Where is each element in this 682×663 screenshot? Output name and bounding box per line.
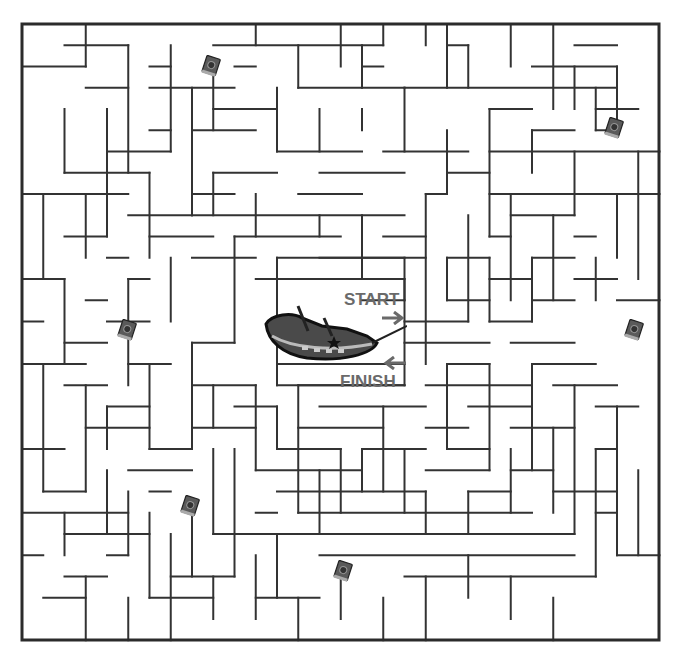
- spellbook-icon: [201, 55, 221, 77]
- spellbook-icon: [180, 495, 200, 517]
- pirate-ship-icon: [262, 296, 407, 366]
- spellbook-icon: [117, 319, 137, 341]
- spellbook-icon: [333, 560, 353, 582]
- finish-label: FINISH: [340, 372, 396, 392]
- spellbook-icon: [624, 319, 644, 341]
- spellbook-icon: [604, 117, 624, 139]
